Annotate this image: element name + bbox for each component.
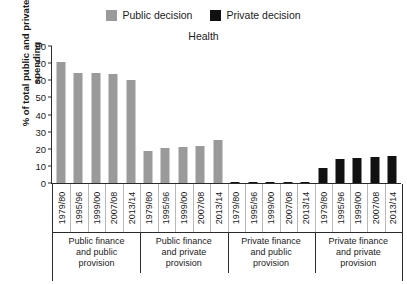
bar[interactable] [301, 182, 310, 183]
bar[interactable] [388, 156, 397, 183]
x-tick-slot: 2013/14 [210, 184, 227, 232]
bar[interactable] [266, 182, 275, 183]
x-tick-label: 1999/00 [266, 192, 276, 225]
x-tick-slot: 1995/96 [158, 184, 175, 232]
legend-label-private: Private decision [226, 10, 300, 21]
group-label: Private financeand publicprovision [228, 233, 315, 281]
y-axis-ticks: 01020304050607080 [20, 46, 52, 183]
bar-slot [244, 46, 261, 183]
group-label-line: and private [140, 247, 227, 258]
x-tick-separator [332, 184, 333, 232]
y-tick-label-70: 70 [35, 58, 46, 69]
bar-slot [69, 46, 86, 183]
x-tick-separator [297, 184, 298, 232]
bar[interactable] [178, 147, 187, 183]
x-tick-label: 1979/80 [57, 192, 67, 225]
x-tick-label: 1979/80 [319, 192, 329, 225]
bar-slot [296, 46, 313, 183]
y-tick-label-0: 0 [41, 178, 46, 189]
bar[interactable] [248, 182, 257, 183]
x-tick-slot: 1995/96 [332, 184, 349, 232]
bar-slot [104, 46, 121, 183]
y-tick-label-80: 80 [35, 41, 46, 52]
bar-slot [366, 46, 383, 183]
bar-slot [52, 46, 69, 183]
x-tick-label: 1999/00 [179, 192, 189, 225]
x-axis-group-labels: Public financeand publicprovisionPublic … [52, 232, 403, 281]
x-tick-separator [193, 184, 194, 232]
y-tick-label-60: 60 [35, 75, 46, 86]
x-tick-label: 1995/96 [249, 192, 259, 225]
group-label-line: Public finance [140, 236, 227, 247]
bar-slot [331, 46, 348, 183]
group-label-line: and public [228, 247, 315, 258]
x-tick-slot: 1979/80 [53, 184, 70, 232]
x-tick-slot: 1999/00 [350, 184, 367, 232]
bar[interactable] [161, 148, 170, 183]
x-tick-separator [105, 184, 106, 232]
x-axis-tick-labels: 1979/801995/961999/002007/082013/141979/… [52, 184, 403, 232]
x-tick-label: 1979/80 [231, 192, 241, 225]
bar-slot [139, 46, 156, 183]
group-label-line: provision [53, 258, 140, 269]
x-tick-slot: 1995/96 [70, 184, 87, 232]
legend-swatch-public [106, 10, 117, 21]
x-tick-label: 2007/08 [284, 192, 294, 225]
x-tick-slot: 2013/14 [297, 184, 314, 232]
bar[interactable] [213, 140, 222, 183]
x-tick-separator [123, 184, 124, 232]
bar-slot [192, 46, 209, 183]
x-tick-separator [280, 184, 281, 232]
bar[interactable] [370, 157, 379, 183]
x-tick-slot: 2007/08 [367, 184, 384, 232]
x-tick-separator [88, 184, 89, 232]
x-tick-slot: 2013/14 [385, 184, 402, 232]
bar-slot [261, 46, 278, 183]
group-label-line: provision [140, 258, 227, 269]
chart-legend: Public decision Private decision [0, 10, 407, 21]
x-tick-label: 1999/00 [353, 192, 363, 225]
y-tick-label-40: 40 [35, 109, 46, 120]
bar-slot [157, 46, 174, 183]
x-tick-slot: 1999/00 [88, 184, 105, 232]
chart-title: Health [0, 30, 407, 42]
bar[interactable] [196, 146, 205, 183]
bar[interactable] [318, 168, 327, 183]
bar-slot [314, 46, 331, 183]
group-label: Public financeand privateprovision [140, 233, 227, 281]
bar[interactable] [126, 80, 135, 183]
bar[interactable] [74, 73, 83, 183]
bars-container [52, 46, 401, 183]
x-tick-separator [210, 184, 211, 232]
plot-area: 01020304050607080 [52, 46, 401, 183]
x-tick-separator [367, 184, 368, 232]
x-tick-slot: 2013/14 [123, 184, 140, 232]
group-label-line: Public finance [53, 236, 140, 247]
bar[interactable] [353, 158, 362, 183]
x-tick-separator [228, 184, 229, 232]
bar[interactable] [283, 182, 292, 183]
bar[interactable] [109, 74, 118, 183]
x-tick-slot: 1979/80 [140, 184, 157, 232]
x-tick-separator [262, 184, 263, 232]
x-tick-slot: 1979/80 [228, 184, 245, 232]
bar[interactable] [231, 182, 240, 183]
bar[interactable] [143, 151, 152, 183]
x-tick-label: 2013/14 [214, 192, 224, 225]
bar-slot [174, 46, 191, 183]
x-tick-label: 1979/80 [144, 192, 154, 225]
bar[interactable] [91, 73, 100, 183]
group-label-line: Private finance [228, 236, 315, 247]
group-label-line: and private [315, 247, 402, 258]
bar-slot [384, 46, 401, 183]
x-tick-separator [315, 184, 316, 232]
x-tick-slot: 2007/08 [193, 184, 210, 232]
x-tick-label: 1999/00 [92, 192, 102, 225]
x-tick-separator [350, 184, 351, 232]
bar[interactable] [335, 159, 344, 183]
y-tick-label-50: 50 [35, 92, 46, 103]
x-tick-slot: 2007/08 [280, 184, 297, 232]
group-label-line: and public [53, 247, 140, 258]
bar[interactable] [56, 62, 65, 183]
x-tick-label: 1995/96 [74, 192, 84, 225]
